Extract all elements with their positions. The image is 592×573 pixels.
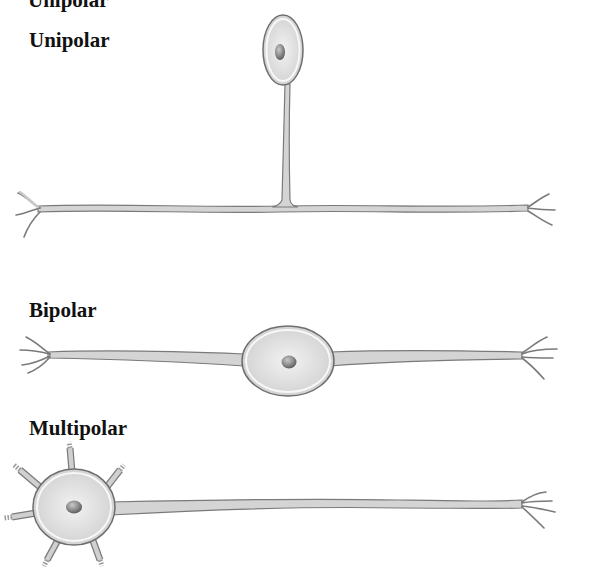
unipolar-nucleus [275, 44, 285, 60]
unipolar-stem [272, 84, 298, 207]
unipolar-right-terminal [528, 194, 555, 225]
multipolar-right-terminal [522, 492, 555, 528]
bipolar-left-process [48, 351, 244, 366]
neuron-diagram [0, 0, 592, 573]
bipolar-neuron [20, 326, 557, 396]
multipolar-nucleus [66, 501, 82, 514]
bipolar-nucleus [282, 356, 297, 369]
multipolar-neuron [4, 442, 555, 566]
bipolar-right-terminal [522, 337, 557, 379]
bipolar-left-terminal [20, 337, 50, 373]
unipolar-neuron [16, 15, 555, 237]
unipolar-left-terminal [16, 192, 40, 237]
multipolar-axon [110, 499, 522, 515]
bipolar-right-process [330, 351, 522, 367]
